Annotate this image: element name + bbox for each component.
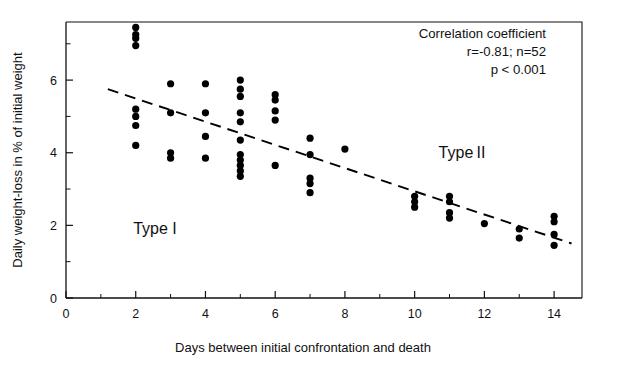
data-point	[237, 136, 244, 143]
data-point	[202, 133, 209, 140]
y-tick-label: 0	[50, 292, 57, 306]
data-point	[132, 106, 139, 113]
data-point	[132, 142, 139, 149]
data-point	[272, 162, 279, 169]
data-point	[132, 24, 139, 31]
data-point	[481, 220, 488, 227]
y-axis-title: Daily weight-loss in % of initial weight	[10, 52, 25, 268]
data-point	[306, 135, 313, 142]
data-point	[341, 146, 348, 153]
x-tick-label: 10	[408, 307, 422, 321]
data-point	[516, 225, 523, 232]
plot-svg: 024681012140246 Days between initial con…	[0, 0, 622, 369]
data-point	[167, 155, 174, 162]
data-point	[132, 122, 139, 129]
data-point	[202, 109, 209, 116]
data-point	[306, 180, 313, 187]
data-point	[272, 116, 279, 123]
data-point	[237, 93, 244, 100]
type-two-label: Type II	[439, 144, 486, 161]
correlation-title-annotation: Correlation coefficient	[419, 26, 547, 41]
data-point	[551, 242, 558, 249]
x-tick-label: 8	[341, 307, 348, 321]
data-point	[446, 198, 453, 205]
data-point	[516, 234, 523, 241]
data-point	[272, 107, 279, 114]
data-point	[237, 77, 244, 84]
x-tick-label: 2	[132, 307, 139, 321]
x-axis-title: Days between initial confrontation and d…	[175, 340, 431, 355]
data-point	[202, 155, 209, 162]
data-point	[132, 42, 139, 49]
p-value-annotation: p < 0.001	[491, 62, 546, 77]
x-tick-label: 4	[202, 307, 209, 321]
correlation-stats-annotation: r=-0.81; n=52	[467, 44, 546, 59]
data-point	[237, 109, 244, 116]
data-point	[202, 80, 209, 87]
y-tick-label: 6	[50, 74, 57, 88]
data-point	[306, 189, 313, 196]
data-point	[237, 173, 244, 180]
data-point	[272, 96, 279, 103]
x-tick-label: 0	[63, 307, 70, 321]
x-tick-label: 14	[547, 307, 561, 321]
data-point	[551, 218, 558, 225]
data-point	[167, 109, 174, 116]
data-point	[411, 204, 418, 211]
x-tick-label: 6	[272, 307, 279, 321]
type-one-label: Type I	[133, 220, 177, 237]
data-point	[167, 80, 174, 87]
scatter-plot-figure: 024681012140246 Days between initial con…	[0, 0, 622, 369]
data-point	[132, 35, 139, 42]
data-point	[446, 215, 453, 222]
data-point	[237, 118, 244, 125]
x-tick-label: 12	[477, 307, 491, 321]
data-point	[306, 151, 313, 158]
y-tick-label: 4	[50, 146, 57, 160]
data-point	[132, 113, 139, 120]
y-tick-label: 2	[50, 219, 57, 233]
data-point	[551, 231, 558, 238]
data-point	[237, 86, 244, 93]
